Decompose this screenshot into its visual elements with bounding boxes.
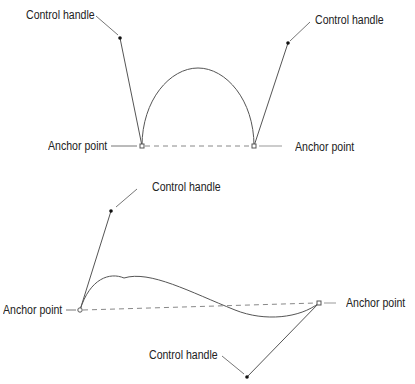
label-top-control-left: Control handle [26, 8, 95, 22]
bottom-top-control-point [109, 209, 113, 213]
label-top-anchor-left: Anchor point [48, 139, 107, 153]
bottom-left-anchor-point [78, 308, 82, 312]
label-bottom-anchor-left: Anchor point [3, 303, 62, 317]
top-right-control-leader [290, 22, 310, 41]
top-figure [96, 16, 310, 148]
label-top-anchor-right: Anchor point [295, 140, 354, 154]
top-left-control-point [118, 36, 122, 40]
label-bottom-anchor-right: Anchor point [346, 296, 405, 310]
top-left-anchor-point [140, 144, 144, 148]
bottom-curve [80, 276, 319, 317]
top-curve [142, 68, 254, 146]
label-bottom-control-bottom: Control handle [149, 348, 218, 362]
bottom-top-control-leader [116, 189, 137, 207]
label-top-control-right: Control handle [315, 13, 384, 27]
top-right-anchor-point [252, 144, 256, 148]
top-right-handle-line [254, 43, 288, 146]
bottom-bottom-control-leader [222, 356, 244, 374]
top-right-control-point [286, 41, 290, 45]
bottom-right-anchor-point [317, 301, 321, 305]
bottom-right-handle-line [247, 303, 319, 377]
top-left-control-leader [96, 16, 118, 35]
top-left-handle-line [120, 38, 142, 146]
label-bottom-control-top: Control handle [152, 180, 221, 194]
bottom-bottom-control-point [245, 375, 249, 379]
bottom-left-handle-line [80, 211, 111, 310]
bottom-baseline-dashed [83, 303, 316, 310]
